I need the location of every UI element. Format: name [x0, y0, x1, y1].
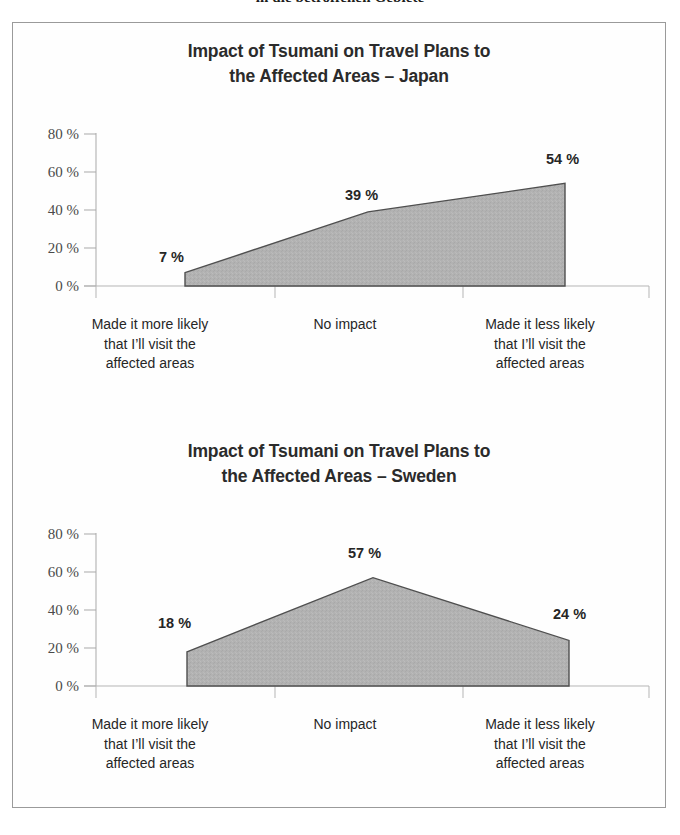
chart-japan-title-line2: the Affected Areas – Japan [13, 64, 665, 89]
chart-japan-ytick-label-40: 40 % [21, 203, 79, 218]
chart-japan-xlabel-2: Made it less likely that I’ll visit the … [425, 315, 655, 374]
chart-sweden: Impact of Tsumani on Travel Plans to the… [13, 423, 665, 807]
chart-japan-xlabel-0-line3: affected areas [35, 354, 265, 374]
chart-japan-xlabel-0-line2: that I’ll visit the [35, 335, 265, 355]
chart-sweden-xlabel-2-line3: affected areas [425, 754, 655, 774]
chart-japan-svg [13, 111, 665, 301]
chart-japan-ytick-label-60: 60 % [21, 165, 79, 180]
chart-japan-xlabel-2-line1: Made it less likely [425, 315, 655, 335]
chart-sweden-xlabel-2: Made it less likely that I’ll visit the … [425, 715, 655, 774]
page-caption-clipped: in die betroffenen Gebiete [0, 0, 680, 6]
chart-japan-xlabel-1: No impact [265, 315, 425, 374]
chart-sweden-xlabel-1: No impact [265, 715, 425, 774]
chart-sweden-value-label-1: 57 % [348, 545, 381, 561]
chart-japan-xlabel-2-line3: affected areas [425, 354, 655, 374]
chart-japan-value-label-2: 54 % [546, 151, 579, 167]
figure-frame: Impact of Tsumani on Travel Plans to the… [12, 22, 666, 808]
chart-sweden-plot-area: 80 % 60 % 40 % 20 % 0 % 18 % 57 % 24 % [13, 511, 665, 701]
chart-japan-title: Impact of Tsumani on Travel Plans to the… [13, 39, 665, 89]
chart-sweden-xlabel-2-line1: Made it less likely [425, 715, 655, 735]
chart-japan-xlabel-2-line2: that I’ll visit the [425, 335, 655, 355]
chart-japan-x-labels: Made it more likely that I’ll visit the … [13, 315, 665, 374]
chart-sweden-value-label-0: 18 % [158, 615, 191, 631]
chart-japan-title-line1: Impact of Tsumani on Travel Plans to [188, 41, 491, 61]
chart-sweden-xlabel-0: Made it more likely that I’ll visit the … [35, 715, 265, 774]
chart-sweden-ytick-label-80: 80 % [21, 527, 79, 542]
chart-japan: Impact of Tsumani on Travel Plans to the… [13, 23, 665, 408]
chart-sweden-value-label-2: 24 % [553, 606, 586, 622]
chart-sweden-ytick-label-60: 60 % [21, 565, 79, 580]
chart-sweden-area-series [187, 578, 569, 686]
chart-sweden-xlabel-0-line2: that I’ll visit the [35, 735, 265, 755]
chart-japan-value-label-0: 7 % [159, 249, 184, 265]
chart-japan-ytick-label-20: 20 % [21, 241, 79, 256]
chart-japan-ytick-label-0: 0 % [21, 279, 79, 294]
chart-sweden-title: Impact of Tsumani on Travel Plans to the… [13, 439, 665, 489]
chart-japan-xlabel-0-line1: Made it more likely [35, 315, 265, 335]
chart-japan-xlabel-0: Made it more likely that I’ll visit the … [35, 315, 265, 374]
chart-sweden-ytick-label-0: 0 % [21, 679, 79, 694]
chart-sweden-xlabel-0-line3: affected areas [35, 754, 265, 774]
chart-sweden-title-line2: the Affected Areas – Sweden [13, 464, 665, 489]
chart-sweden-xlabel-0-line1: Made it more likely [35, 715, 265, 735]
chart-japan-value-label-1: 39 % [345, 187, 378, 203]
chart-japan-xlabel-1-line1: No impact [265, 315, 425, 335]
chart-sweden-ytick-label-20: 20 % [21, 641, 79, 656]
chart-japan-ytick-label-80: 80 % [21, 127, 79, 142]
chart-sweden-xlabel-2-line2: that I’ll visit the [425, 735, 655, 755]
chart-sweden-xlabel-1-line1: No impact [265, 715, 425, 735]
chart-sweden-x-labels: Made it more likely that I’ll visit the … [13, 715, 665, 774]
chart-japan-plot-area: 80 % 60 % 40 % 20 % 0 % 7 % 39 % 54 % [13, 111, 665, 301]
chart-sweden-title-line1: Impact of Tsumani on Travel Plans to [188, 441, 491, 461]
chart-sweden-ytick-label-40: 40 % [21, 603, 79, 618]
